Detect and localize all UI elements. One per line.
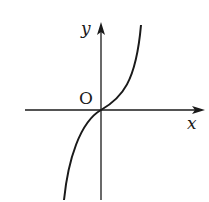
y-axis-label: y: [81, 20, 91, 37]
function-graph: [0, 0, 209, 202]
function-curve: [64, 25, 141, 200]
x-axis-label: x: [187, 115, 197, 132]
origin-label: O: [79, 90, 93, 107]
